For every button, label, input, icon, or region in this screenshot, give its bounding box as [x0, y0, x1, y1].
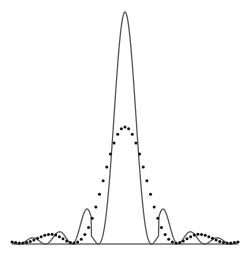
data-point [153, 206, 156, 209]
data-point [105, 165, 108, 168]
data-point [182, 239, 185, 242]
data-point [131, 133, 134, 136]
data-point [40, 235, 43, 238]
data-point [80, 238, 83, 241]
data-point [25, 241, 28, 244]
data-point [91, 217, 94, 220]
data-point [211, 237, 214, 240]
data-point [193, 234, 196, 237]
data-point [51, 233, 54, 236]
data-point [120, 127, 123, 130]
data-point [116, 133, 119, 136]
data-point [98, 193, 101, 196]
data-point [233, 241, 236, 244]
data-point [47, 233, 50, 236]
data-point [200, 233, 203, 236]
data-point [58, 235, 61, 238]
data-point [138, 153, 141, 156]
data-point [167, 238, 170, 241]
data-point [65, 239, 68, 242]
data-point [218, 240, 221, 243]
data-point [229, 241, 232, 244]
data-point [54, 234, 57, 237]
data-point [207, 235, 210, 238]
data-point [237, 240, 240, 243]
data-point [204, 234, 207, 237]
data-point [14, 241, 17, 244]
data-point [156, 217, 159, 220]
data-point [171, 240, 174, 243]
data-point [124, 126, 127, 129]
data-point [196, 233, 199, 236]
data-point [62, 237, 65, 240]
data-point [83, 233, 86, 236]
data-point [29, 240, 32, 243]
data-point [18, 241, 21, 244]
data-point [87, 226, 90, 229]
data-point [127, 127, 130, 130]
data-point [142, 165, 145, 168]
data-point [222, 241, 225, 244]
data-point [215, 239, 218, 242]
data-point [21, 241, 24, 244]
data-point [72, 241, 75, 244]
data-point [76, 240, 79, 243]
dotted-curve [11, 126, 240, 245]
data-point [36, 237, 39, 240]
data-point [32, 239, 35, 242]
data-point [160, 226, 163, 229]
data-point [145, 179, 148, 182]
data-point [94, 206, 97, 209]
data-point [43, 234, 46, 237]
data-point [149, 193, 152, 196]
data-point [178, 241, 181, 244]
data-point [69, 241, 72, 244]
data-point [11, 240, 14, 243]
data-point [175, 241, 178, 244]
data-point [113, 141, 116, 144]
data-point [164, 233, 167, 236]
data-point [189, 235, 192, 238]
data-point [226, 241, 229, 244]
data-point [109, 153, 112, 156]
data-point [185, 237, 188, 240]
data-point [102, 179, 105, 182]
diffraction-chart [0, 0, 251, 255]
data-point [134, 141, 137, 144]
